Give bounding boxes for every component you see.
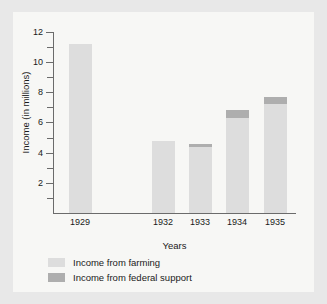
legend-swatch: [48, 273, 65, 282]
y-axis-minor-tick: [47, 198, 53, 199]
chart-legend: Income from farmingIncome from federal s…: [48, 255, 298, 285]
legend-swatch: [48, 258, 65, 267]
x-axis-tick-label: 1935: [259, 217, 291, 227]
bar-stack: [152, 141, 175, 213]
bar-segment-farming: [69, 44, 92, 213]
bar-segment-farming: [152, 141, 175, 213]
bar-stack: [264, 97, 287, 213]
y-axis-minor-tick: [47, 77, 53, 78]
x-axis-line: [53, 213, 296, 214]
x-axis-tick-label: 1934: [221, 217, 253, 227]
chart-figure: 24681012 Income (in millions) 1929193219…: [13, 12, 314, 292]
bar-stack: [69, 44, 92, 213]
x-axis-title: Years: [53, 240, 296, 251]
y-axis-major-tick: [46, 92, 53, 93]
bar-segment-farming: [189, 147, 212, 213]
y-axis-major-tick: [46, 122, 53, 123]
x-axis-tick-label: 1932: [147, 217, 179, 227]
y-axis-major-tick: [46, 32, 53, 33]
y-axis-major-tick: [46, 62, 53, 63]
y-axis-title: Income (in millions): [20, 48, 31, 178]
y-axis-minor-tick: [47, 168, 53, 169]
bar-segment-farming: [226, 118, 249, 213]
y-axis-minor-tick: [47, 47, 53, 48]
legend-label: Income from federal support: [73, 272, 192, 283]
bar-stack: [226, 110, 249, 213]
y-axis-minor-tick: [47, 107, 53, 108]
legend-item: Income from farming: [48, 255, 298, 270]
legend-item: Income from federal support: [48, 270, 298, 285]
bar-stack: [189, 144, 212, 213]
x-axis-tick-label: 1929: [64, 217, 96, 227]
y-axis-major-tick: [46, 183, 53, 184]
y-axis-tick-label: 2: [23, 179, 43, 188]
bar-segment-farming: [264, 104, 287, 213]
y-axis-tick-label: 12: [23, 28, 43, 37]
bar-segment-federal-support: [264, 97, 287, 105]
bar-segment-federal-support: [226, 110, 249, 118]
y-axis-major-tick: [46, 153, 53, 154]
y-axis-line: [53, 32, 54, 214]
y-axis-minor-tick: [47, 138, 53, 139]
x-axis-tick-label: 1933: [184, 217, 216, 227]
legend-label: Income from farming: [73, 257, 160, 268]
